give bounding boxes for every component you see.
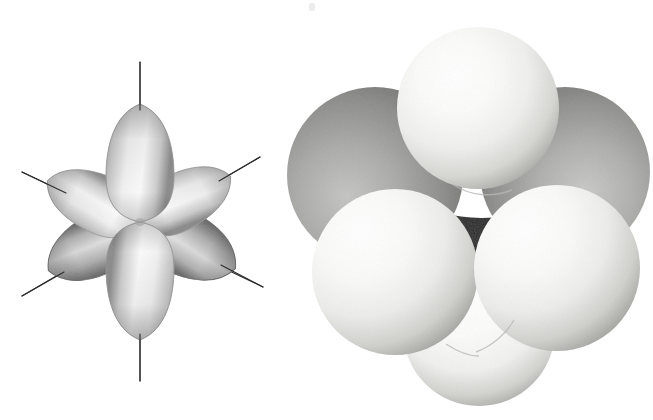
orbital-diagram-hit-area[interactable] <box>8 45 278 395</box>
space-filling-model-hit-area[interactable] <box>290 10 650 415</box>
figure-root <box>0 0 653 420</box>
